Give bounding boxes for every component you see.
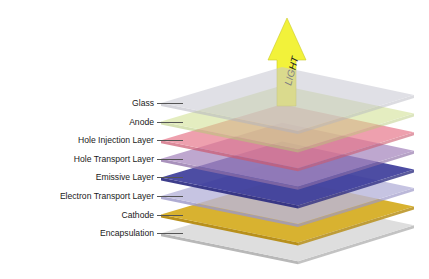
layer-stack: LIGHT [0, 0, 429, 279]
label-electron-transport-layer: Electron Transport Layer [60, 191, 154, 201]
leader-line [157, 215, 183, 216]
label-hole-injection-layer: Hole Injection Layer [78, 135, 154, 145]
leader-line [157, 159, 183, 160]
leader-line [157, 233, 183, 234]
label-cathode: Cathode [122, 210, 155, 220]
label-anode: Anode [129, 117, 154, 127]
leader-line [157, 177, 183, 178]
label-emissive-layer: Emissive Layer [96, 172, 154, 182]
label-glass: Glass [132, 98, 154, 108]
label-encapsulation: Encapsulation [100, 228, 154, 238]
leader-line [157, 196, 183, 197]
leader-line [157, 103, 183, 104]
leader-line [157, 122, 183, 123]
label-hole-transport-layer: Hole Transport Layer [74, 154, 154, 164]
leader-line [157, 140, 183, 141]
oled-layer-diagram: LIGHT GlassAnodeHole Injection LayerHole… [0, 0, 429, 279]
